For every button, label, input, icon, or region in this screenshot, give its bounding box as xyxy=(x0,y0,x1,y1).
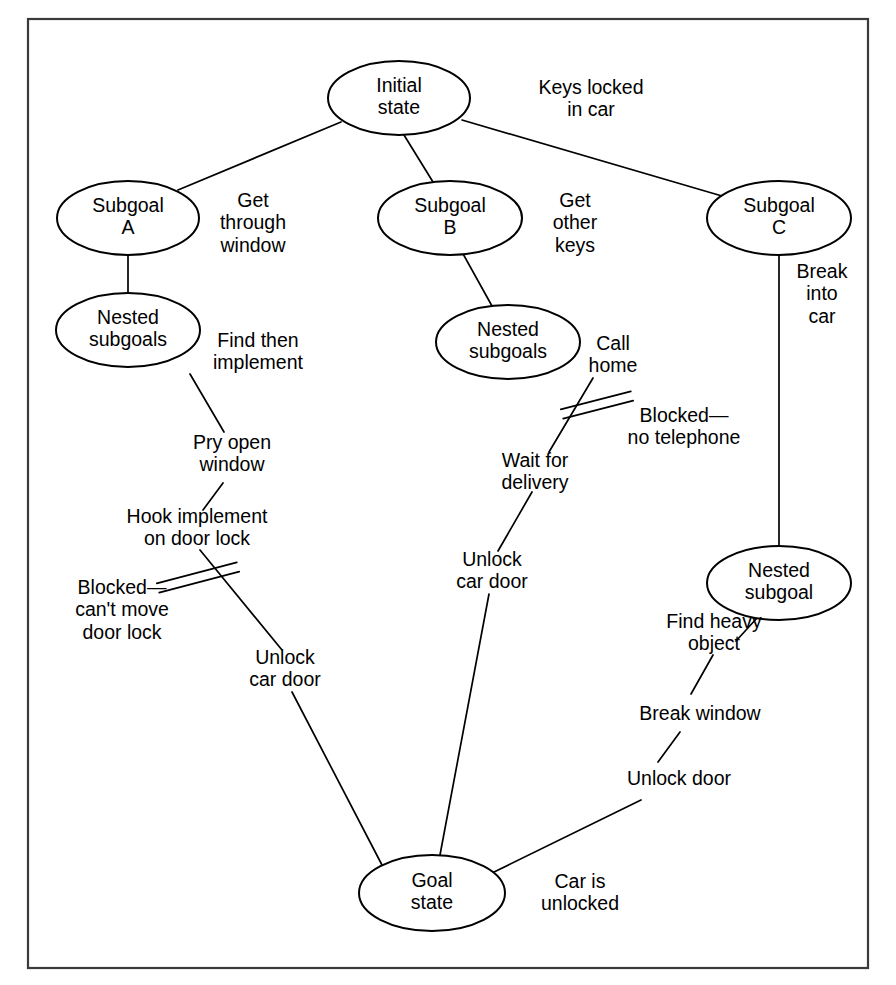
subgoal-c-label-line-1: Subgoal xyxy=(743,194,815,216)
blocked-cant-move-door-lock-line-2: can't move xyxy=(75,598,169,620)
edge-nested-a-to-pry xyxy=(190,374,224,432)
break-into-car-line-1: Break xyxy=(797,260,848,282)
unlock-car-door-left-line-1: Unlock xyxy=(255,646,315,668)
node-subgoal-a[interactable]: SubgoalA xyxy=(57,181,199,255)
diagram-canvas: InitialstateSubgoalANestedsubgoalsSubgoa… xyxy=(0,0,896,985)
label-car-is-unlocked: Car isunlocked xyxy=(541,870,619,915)
break-into-car-line-2: into xyxy=(806,282,838,304)
keys-locked-in-car-line-1: Keys locked xyxy=(538,76,643,98)
find-heavy-object-line-1: Find heavy xyxy=(666,610,762,632)
blocked-no-telephone-line-2: no telephone xyxy=(628,426,741,448)
node-nested-subgoals-a[interactable]: Nestedsubgoals xyxy=(56,293,200,367)
edge-initial-to-subgoal-c xyxy=(462,120,722,196)
goal-tree-diagram: InitialstateSubgoalANestedsubgoalsSubgoa… xyxy=(0,0,896,985)
car-is-unlocked-line-1: Car is xyxy=(555,870,606,892)
nested-subgoals-b-label-line-1: Nested xyxy=(477,318,539,340)
edge-initial-to-subgoal-b xyxy=(404,135,433,182)
blocked-no-telephone-line-1: Blocked— xyxy=(640,404,729,426)
get-through-window-line-3: window xyxy=(219,234,286,256)
blocked-cant-move-door-lock-line-1: Blocked— xyxy=(78,576,167,598)
goal-state-label-line-2: state xyxy=(411,891,453,913)
label-keys-locked-in-car: Keys lockedin car xyxy=(538,76,643,121)
get-other-keys-line-3: keys xyxy=(555,234,595,256)
break-into-car-line-3: car xyxy=(808,305,836,327)
get-through-window-line-1: Get xyxy=(237,189,269,211)
edge-initial-to-subgoal-a xyxy=(178,122,341,190)
wait-for-delivery-line-2: delivery xyxy=(501,471,568,493)
edge-wait-to-unlock-mid xyxy=(498,492,532,551)
wait-for-delivery-line-1: Wait for xyxy=(502,449,569,471)
edge-break-window-to-unlock-door xyxy=(658,732,680,762)
keys-locked-in-car-line-2: in car xyxy=(567,98,615,120)
label-get-through-window: Getthroughwindow xyxy=(219,189,286,256)
unlock-car-door-mid-line-1: Unlock xyxy=(462,548,522,570)
pry-open-window-line-2: window xyxy=(198,453,265,475)
unlock-car-door-mid-line-2: car door xyxy=(456,570,528,592)
call-home-line-2: home xyxy=(589,354,638,376)
label-get-other-keys: Getotherkeys xyxy=(553,189,598,256)
label-pry-open-window: Pry openwindow xyxy=(193,431,271,476)
edge-unlock-mid-to-goal xyxy=(440,594,489,855)
find-heavy-object-line-2: object xyxy=(688,632,741,654)
edge-find-heavy-to-break-window xyxy=(691,655,713,694)
subgoal-b-label-line-1: Subgoal xyxy=(414,194,486,216)
subgoal-b-label-line-2: B xyxy=(443,216,456,238)
unlock-door-line-1: Unlock door xyxy=(627,767,732,789)
break-window-line-1: Break window xyxy=(639,702,761,724)
edge-nested-b-to-wait xyxy=(549,378,593,452)
nodes-layer: InitialstateSubgoalANestedsubgoalsSubgoa… xyxy=(56,61,851,931)
get-other-keys-line-2: other xyxy=(553,211,598,233)
label-wait-for-delivery: Wait fordelivery xyxy=(501,449,568,494)
edge-hook-to-unlock-left xyxy=(200,550,282,650)
hook-implement-on-door-lock-line-1: Hook implement xyxy=(127,505,268,527)
get-other-keys-line-1: Get xyxy=(559,189,591,211)
goal-state-label-line-1: Goal xyxy=(411,869,452,891)
car-is-unlocked-line-2: unlocked xyxy=(541,892,619,914)
blocked-marker-middle-stroke-1 xyxy=(561,391,631,409)
unlock-car-door-left-line-2: car door xyxy=(249,668,321,690)
call-home-line-1: Call xyxy=(596,332,630,354)
label-unlock-car-door-left: Unlockcar door xyxy=(249,646,321,691)
nested-subgoals-a-label-line-2: subgoals xyxy=(89,328,167,350)
subgoal-a-label-line-1: Subgoal xyxy=(92,194,164,216)
node-subgoal-b[interactable]: SubgoalB xyxy=(378,181,522,255)
label-find-heavy-object: Find heavyobject xyxy=(666,610,762,655)
label-blocked-no-telephone: Blocked—no telephone xyxy=(628,404,741,449)
blocked-cant-move-door-lock-line-3: door lock xyxy=(82,621,161,643)
subgoal-c-label-line-2: C xyxy=(772,216,786,238)
initial-state-label-line-2: state xyxy=(378,96,420,118)
label-find-then-implement: Find thenimplement xyxy=(213,329,304,374)
edge-unlock-left-to-goal xyxy=(292,692,382,865)
label-unlock-car-door-mid: Unlockcar door xyxy=(456,548,528,593)
node-nested-subgoals-b[interactable]: Nestedsubgoals xyxy=(436,305,580,379)
nested-subgoal-c-label-line-2: subgoal xyxy=(745,581,813,603)
get-through-window-line-2: through xyxy=(220,211,286,233)
node-subgoal-c[interactable]: SubgoalC xyxy=(707,181,851,255)
pry-open-window-line-1: Pry open xyxy=(193,431,271,453)
initial-state-label-line-1: Initial xyxy=(376,74,422,96)
node-initial-state[interactable]: Initialstate xyxy=(328,61,470,135)
edge-unlock-door-to-goal xyxy=(492,800,641,873)
node-goal-state[interactable]: Goalstate xyxy=(359,855,505,931)
edge-subgoal-b-to-nested-b xyxy=(462,252,492,306)
find-then-implement-line-1: Find then xyxy=(217,329,298,351)
label-hook-implement-on-door-lock: Hook implementon door lock xyxy=(127,505,268,550)
label-unlock-door: Unlock door xyxy=(627,767,732,789)
label-break-window: Break window xyxy=(639,702,761,724)
diagram-frame xyxy=(28,19,868,968)
label-call-home: Callhome xyxy=(589,332,638,377)
blocked-marker-left xyxy=(157,562,239,592)
nested-subgoals-a-label-line-1: Nested xyxy=(97,306,159,328)
label-break-into-car: Breakintocar xyxy=(797,260,848,327)
nested-subgoals-b-label-line-2: subgoals xyxy=(469,340,547,362)
nested-subgoal-c-label-line-1: Nested xyxy=(748,559,810,581)
node-nested-subgoal-c[interactable]: Nestedsubgoal xyxy=(707,546,851,620)
subgoal-a-label-line-2: A xyxy=(121,216,134,238)
label-blocked-cant-move-door-lock: Blocked—can't movedoor lock xyxy=(75,576,169,643)
find-then-implement-line-2: implement xyxy=(213,351,304,373)
hook-implement-on-door-lock-line-2: on door lock xyxy=(144,527,250,549)
